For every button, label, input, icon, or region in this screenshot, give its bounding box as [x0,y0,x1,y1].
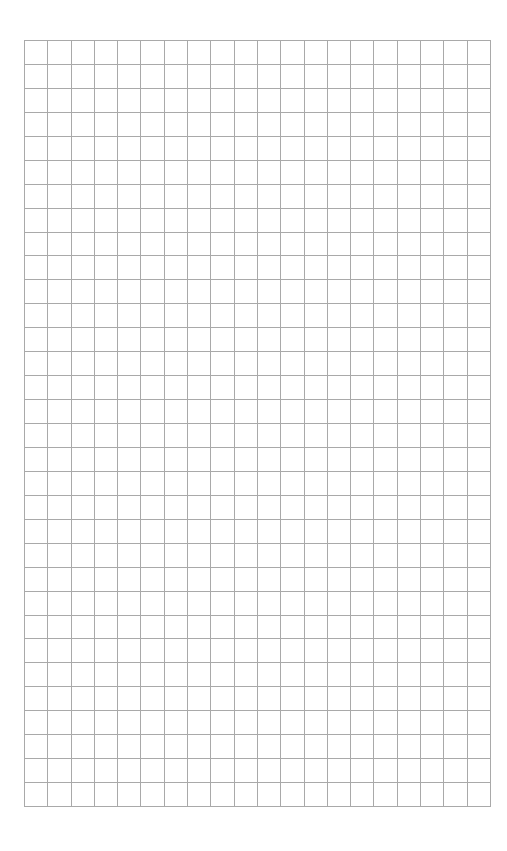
grid-cell [165,41,188,65]
grid-cell [25,280,48,304]
grid-cell [235,256,258,280]
grid-cell [468,639,491,663]
grid-cell [235,352,258,376]
grid-cell [211,639,234,663]
grid-cell [118,209,141,233]
grid-cell [281,304,304,328]
grid-cell [165,448,188,472]
grid-cell [95,352,118,376]
grid-cell [95,735,118,759]
grid-cell [398,376,421,400]
grid-cell [72,592,95,616]
grid-cell [421,376,444,400]
grid-cell [281,209,304,233]
grid-cell [398,89,421,113]
grid-cell [25,783,48,807]
grid-cell [281,544,304,568]
grid-cell [188,711,211,735]
grid-cell [398,783,421,807]
grid-cell [188,663,211,687]
grid-cell [281,448,304,472]
grid-cell [95,304,118,328]
grid-cell [48,711,71,735]
grid-cell [328,256,351,280]
grid-cell [258,496,281,520]
grid-cell [258,424,281,448]
grid-cell [421,783,444,807]
grid-cell [95,161,118,185]
grid-cell [328,65,351,89]
grid-cell [374,735,397,759]
grid-cell [25,41,48,65]
grid-cell [95,280,118,304]
grid-cell [374,472,397,496]
grid-cell [165,376,188,400]
grid-cell [281,400,304,424]
grid-cell [25,65,48,89]
grid-cell [95,783,118,807]
grid-cell [95,663,118,687]
grid-cell [72,448,95,472]
grid-cell [72,304,95,328]
grid-cell [468,592,491,616]
grid-cell [141,759,164,783]
grid-cell [188,89,211,113]
grid-cell [444,568,467,592]
grid-cell [235,328,258,352]
grid-cell [468,304,491,328]
grid-cell [211,448,234,472]
grid-cell [95,544,118,568]
grid-cell [25,352,48,376]
grid-cell [235,711,258,735]
grid-cell [258,759,281,783]
grid-cell [258,376,281,400]
grid-cell [421,520,444,544]
grid-cell [421,639,444,663]
square-grid [24,40,491,807]
grid-cell [374,616,397,640]
grid-cell [258,711,281,735]
grid-cell [235,735,258,759]
grid-cell [444,113,467,137]
grid-cell [258,328,281,352]
grid-cell [444,41,467,65]
grid-cell [72,113,95,137]
grid-cell [468,161,491,185]
grid-cell [444,185,467,209]
grid-cell [25,735,48,759]
grid-cell [468,544,491,568]
grid-cell [305,41,328,65]
grid-cell [281,687,304,711]
grid-cell [165,185,188,209]
grid-cell [25,616,48,640]
grid-cell [211,304,234,328]
grid-cell [281,89,304,113]
grid-cell [141,616,164,640]
grid-cell [235,687,258,711]
grid-cell [351,89,374,113]
grid-cell [398,256,421,280]
grid-cell [328,472,351,496]
grid-cell [398,424,421,448]
grid-cell [444,400,467,424]
grid-cell [421,400,444,424]
grid-cell [141,185,164,209]
grid-cell [398,639,421,663]
grid-cell [305,113,328,137]
grid-cell [374,448,397,472]
grid-cell [305,233,328,257]
grid-cell [421,280,444,304]
grid-cell [72,759,95,783]
grid-cell [188,376,211,400]
grid-cell [235,137,258,161]
grid-cell [72,687,95,711]
grid-cell [374,496,397,520]
grid-cell [374,233,397,257]
grid-cell [48,544,71,568]
grid-cell [141,89,164,113]
grid-cell [48,137,71,161]
grid-cell [211,424,234,448]
grid-cell [48,400,71,424]
grid-cell [25,496,48,520]
grid-cell [351,233,374,257]
